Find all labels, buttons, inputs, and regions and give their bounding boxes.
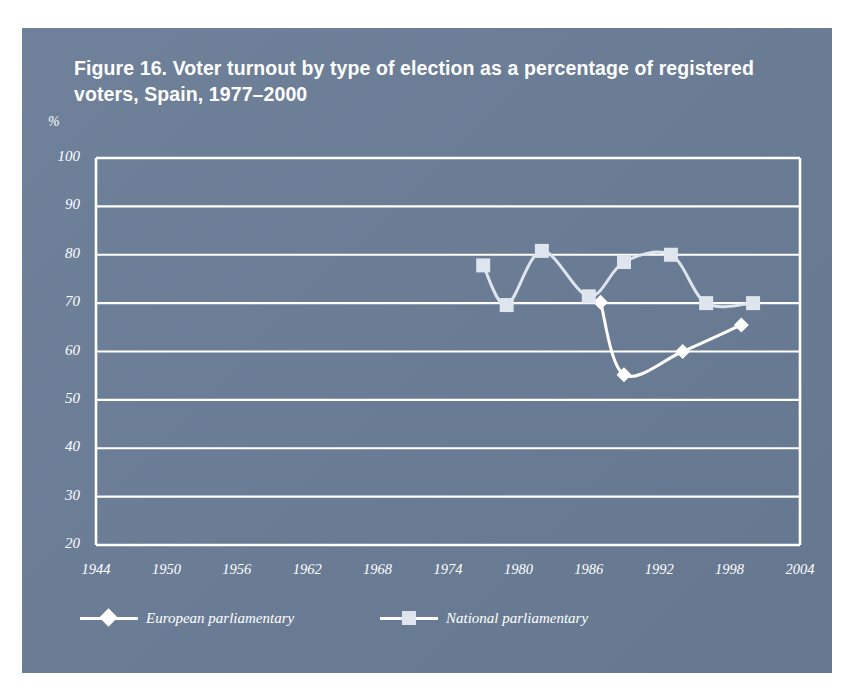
y-axis-tick-label: 30 <box>38 487 80 504</box>
x-axis-tick-label: 1998 <box>700 561 760 578</box>
data-point-square[interactable] <box>582 289 596 303</box>
x-axis-tick-label: 2004 <box>770 561 830 578</box>
x-axis-tick-label: 1992 <box>629 561 689 578</box>
y-axis-tick-label: 20 <box>38 535 80 552</box>
legend-marker-glyph <box>402 611 416 625</box>
x-axis-tick-label: 1956 <box>207 561 267 578</box>
x-axis-tick-label: 1980 <box>488 561 548 578</box>
y-axis-tick-label: 80 <box>38 245 80 262</box>
figure-root: Figure 16. Voter turnout by type of elec… <box>0 0 854 693</box>
data-point-diamond[interactable] <box>734 317 749 332</box>
x-axis-tick-label: 1944 <box>66 561 126 578</box>
legend-marker-diamond-icon <box>80 606 138 630</box>
data-point-square[interactable] <box>664 248 678 262</box>
legend-label: European parliamentary <box>146 610 294 627</box>
series-line <box>601 302 742 376</box>
chart-legend: European parliamentaryNational parliamen… <box>80 606 780 636</box>
y-axis-tick-label: 70 <box>38 293 80 310</box>
data-point-square[interactable] <box>617 255 631 269</box>
y-axis-tick-label: 90 <box>38 196 80 213</box>
legend-marker-glyph <box>99 608 117 626</box>
legend-entry[interactable]: National parliamentary <box>380 606 588 630</box>
y-axis-tick-label: 50 <box>38 390 80 407</box>
data-point-diamond[interactable] <box>675 344 690 359</box>
x-axis-tick-label: 1986 <box>559 561 619 578</box>
y-axis-tick-label: 40 <box>38 438 80 455</box>
legend-marker-square-icon <box>380 606 438 630</box>
legend-label: National parliamentary <box>446 610 588 627</box>
legend-entry[interactable]: European parliamentary <box>80 606 294 630</box>
x-axis-tick-label: 1950 <box>136 561 196 578</box>
data-point-square[interactable] <box>535 244 549 258</box>
y-axis-tick-label: 100 <box>38 148 80 165</box>
x-axis-tick-label: 1962 <box>277 561 337 578</box>
data-point-square[interactable] <box>500 298 514 312</box>
x-axis-tick-label: 1974 <box>418 561 478 578</box>
figure-panel: Figure 16. Voter turnout by type of elec… <box>22 28 832 673</box>
x-axis-tick-label: 1968 <box>348 561 408 578</box>
data-point-square[interactable] <box>699 296 713 310</box>
data-point-square[interactable] <box>476 258 490 272</box>
data-point-square[interactable] <box>746 296 760 310</box>
y-axis-unit-label: % <box>48 114 60 130</box>
chart-plot-area: %203040506070809010019441950195619621968… <box>22 28 832 673</box>
y-axis-tick-label: 60 <box>38 342 80 359</box>
